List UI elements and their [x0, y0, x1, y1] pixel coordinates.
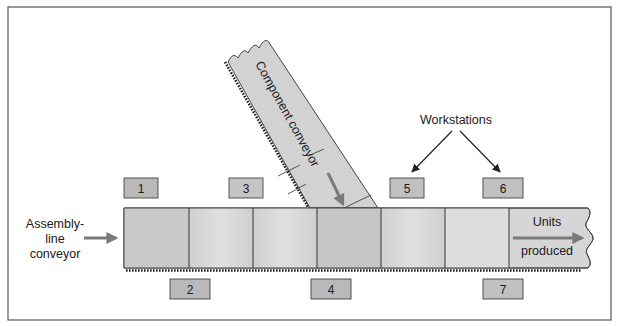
conveyor-segment — [124, 208, 189, 268]
workstation-1: 1 — [124, 178, 158, 198]
svg-text:line: line — [45, 232, 65, 246]
diagram-canvas: Component conveyor Assembly- line convey… — [0, 0, 618, 326]
diagram-stage: Component conveyor Assembly- line convey… — [0, 0, 618, 326]
conveyor-segment — [445, 208, 509, 268]
workstations-label: Workstations — [420, 113, 492, 127]
workstation-3: 3 — [229, 178, 263, 198]
svg-text:3: 3 — [243, 182, 250, 196]
workstation-7: 7 — [483, 279, 523, 299]
svg-text:7: 7 — [500, 283, 507, 297]
svg-text:1: 1 — [138, 182, 145, 196]
conveyor-segment — [381, 208, 445, 268]
svg-text:conveyor: conveyor — [30, 247, 81, 261]
svg-text:6: 6 — [500, 182, 507, 196]
produced-label: produced — [521, 244, 573, 258]
svg-text:5: 5 — [404, 182, 411, 196]
svg-text:Assembly-: Assembly- — [26, 217, 84, 231]
units-label: Units — [533, 215, 561, 229]
workstation-2: 2 — [170, 279, 210, 299]
svg-text:4: 4 — [328, 283, 335, 297]
workstation-4: 4 — [311, 279, 351, 299]
conveyor-segment — [189, 208, 253, 268]
conveyor-segment — [253, 208, 317, 268]
conveyor-segment — [317, 208, 381, 268]
workstation-6: 6 — [483, 178, 523, 198]
workstation-5: 5 — [390, 178, 424, 198]
svg-text:2: 2 — [187, 283, 194, 297]
